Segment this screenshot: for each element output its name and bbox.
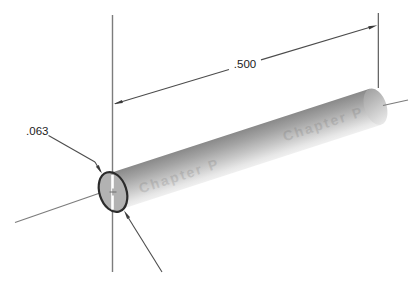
length-dim-label: .500 (234, 58, 256, 70)
cad-viewport: Chapter P Chapter P .500 .063 (0, 0, 420, 293)
cad-figure: Chapter P Chapter P .500 .063 (0, 0, 420, 293)
diameter-dim-label: .063 (26, 125, 48, 137)
